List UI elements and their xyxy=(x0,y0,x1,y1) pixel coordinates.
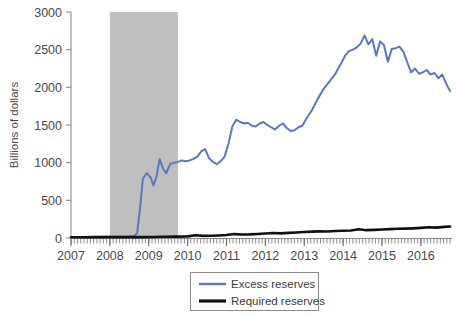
y-tick-label: 0 xyxy=(55,232,62,246)
x-axis-minor-ticks xyxy=(71,239,450,244)
chart-legend: Excess reservesRequired reserves xyxy=(191,273,326,311)
y-tick-label: 1500 xyxy=(34,119,62,133)
y-tick-label: 2000 xyxy=(34,81,62,95)
y-axis-title: Billions of dollars xyxy=(8,82,20,169)
x-tick-label: 2007 xyxy=(57,249,85,263)
chart-svg: 050010001500200025003000 200720082009201… xyxy=(0,0,456,317)
x-tick-label: 2015 xyxy=(368,249,396,263)
y-tick-label: 1000 xyxy=(34,156,62,170)
y-tick-label: 3000 xyxy=(34,6,62,20)
x-tick-label: 2013 xyxy=(290,249,318,263)
x-tick-label: 2014 xyxy=(329,249,357,263)
x-tick-label: 2012 xyxy=(251,249,279,263)
y-tick-label: 2500 xyxy=(34,43,62,57)
recession-shading-group xyxy=(110,12,178,238)
x-tick-label: 2008 xyxy=(96,249,124,263)
x-tick-label: 2011 xyxy=(213,249,240,263)
legend-label-excess-reserves: Excess reserves xyxy=(231,278,316,290)
x-tick-label: 2010 xyxy=(174,249,202,263)
recession-shading xyxy=(110,12,178,238)
y-tick-label: 500 xyxy=(41,194,62,208)
x-tick-label: 2009 xyxy=(135,249,163,263)
excess-and-required-reserves-chart: 050010001500200025003000 200720082009201… xyxy=(0,0,456,317)
x-tick-label: 2016 xyxy=(407,249,435,263)
y-axis-ticks: 050010001500200025003000 xyxy=(34,6,71,246)
legend-label-required-reserves: Required reserves xyxy=(231,295,325,307)
